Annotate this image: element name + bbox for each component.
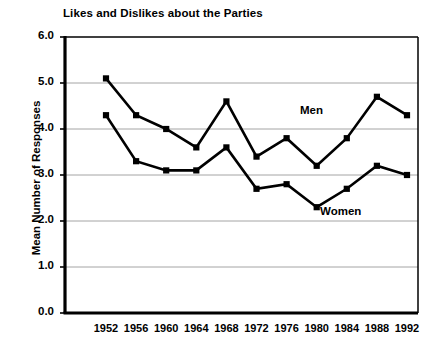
- data-point-marker: [314, 204, 320, 210]
- data-point-marker: [284, 135, 290, 141]
- data-point-marker: [103, 75, 109, 81]
- data-point-marker: [314, 163, 320, 169]
- data-point-marker: [193, 144, 199, 150]
- data-point-marker: [253, 154, 259, 160]
- data-point-marker: [103, 112, 109, 118]
- data-point-marker: [374, 163, 380, 169]
- data-point-marker: [404, 172, 410, 178]
- data-point-marker: [404, 112, 410, 118]
- data-point-marker: [193, 167, 199, 173]
- series-layer: [103, 75, 410, 210]
- plot-area: [0, 0, 445, 356]
- series-label-women: Women: [320, 205, 361, 217]
- data-point-marker: [133, 158, 139, 164]
- data-point-marker: [253, 186, 259, 192]
- data-point-marker: [374, 94, 380, 100]
- data-point-marker: [133, 112, 139, 118]
- chart-container: Likes and Dislikes about the Parties Mea…: [0, 0, 445, 356]
- data-point-marker: [344, 186, 350, 192]
- data-point-marker: [344, 135, 350, 141]
- data-point-marker: [163, 167, 169, 173]
- series-label-men: Men: [300, 104, 323, 116]
- data-point-marker: [163, 126, 169, 132]
- data-point-marker: [223, 98, 229, 104]
- series-line-men: [106, 78, 407, 165]
- data-point-marker: [223, 144, 229, 150]
- data-point-marker: [284, 181, 290, 187]
